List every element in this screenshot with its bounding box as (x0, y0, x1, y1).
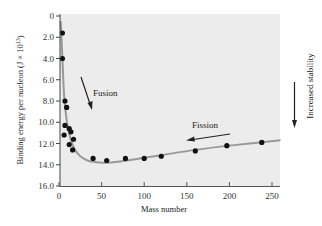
data-point (68, 129, 73, 134)
data-point (71, 137, 76, 142)
y-tick-label: 10.0 (38, 117, 54, 127)
x-tick-label: 0 (57, 191, 62, 201)
y-tick-label: 4.0 (43, 54, 55, 64)
y-tick-label: 12.0 (38, 139, 54, 149)
data-point (64, 105, 69, 110)
data-point (67, 142, 72, 147)
fusion-label: Fusion (93, 88, 118, 98)
data-point (159, 154, 164, 159)
data-point (90, 156, 95, 161)
y-tick-label: 8.0 (43, 96, 55, 106)
data-point (70, 147, 75, 152)
data-point (62, 123, 67, 128)
x-tick-label: 250 (265, 191, 279, 201)
stability-annotation: Increased stability (292, 53, 315, 128)
data-point (123, 156, 128, 161)
data-point (62, 132, 67, 137)
data-point (259, 140, 264, 145)
data-point (142, 156, 147, 161)
y-tick-label: 14.0 (38, 160, 54, 170)
x-tick-label: 100 (137, 191, 151, 201)
y-ticks: 02.04.06.08.010.012.014.016.0 (38, 11, 60, 191)
y-tick-label: 0 (50, 11, 55, 21)
fission-label: Fission (192, 120, 219, 130)
y-tick-label: 6.0 (43, 75, 55, 85)
y-axis-label: Binding energy per nucleon (J × 1013) (15, 35, 25, 164)
x-tick-label: 50 (97, 191, 107, 201)
data-point (224, 143, 229, 148)
stability-arrowhead-icon (292, 120, 297, 128)
data-point (193, 148, 198, 153)
y-tick-label: 16.0 (38, 181, 54, 191)
x-tick-label: 150 (180, 191, 194, 201)
x-axis-label: Mass number (141, 204, 187, 214)
binding-energy-chart: 02.04.06.08.010.012.014.016.0 0501001502… (0, 0, 322, 226)
data-point (104, 158, 109, 163)
data-point (60, 56, 65, 61)
y-tick-label: 2.0 (43, 32, 55, 42)
data-point (60, 30, 65, 35)
x-tick-label: 200 (223, 191, 237, 201)
data-point (62, 98, 67, 103)
stability-label: Increased stability (305, 53, 315, 119)
